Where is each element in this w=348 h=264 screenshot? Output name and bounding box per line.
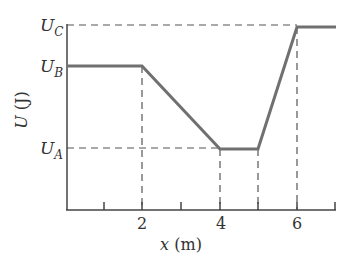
axes bbox=[66, 24, 336, 210]
label-ua: UA bbox=[40, 138, 63, 162]
potential-energy-chart: UC UB UA U (J) 2 4 6 x (m) bbox=[0, 0, 348, 264]
y-axis-title: U (J) bbox=[12, 91, 31, 128]
x-axis-title: x (m) bbox=[160, 235, 202, 254]
label-uc: UC bbox=[40, 15, 64, 39]
x-tick-label-4: 4 bbox=[216, 214, 226, 233]
x-tick-label-2: 2 bbox=[137, 214, 147, 233]
label-ub: UB bbox=[40, 56, 63, 80]
x-tick-label-6: 6 bbox=[292, 214, 302, 233]
dashed-guides bbox=[67, 25, 297, 210]
potential-curve bbox=[68, 27, 336, 149]
